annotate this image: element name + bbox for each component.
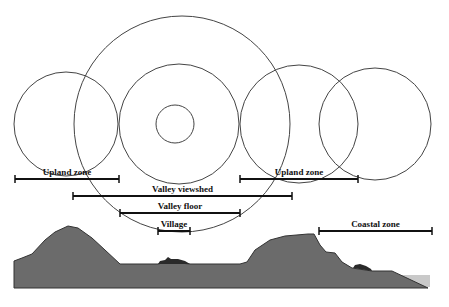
landscape-zone-diagram: Upland zoneValley viewshedValley floorVi…	[0, 0, 449, 307]
upland-zone-right-label: Upland zone	[275, 167, 323, 177]
coastal-zone-label: Coastal zone	[351, 219, 400, 229]
terrain-shape	[14, 226, 428, 288]
village-label: Village	[161, 219, 188, 229]
valley-viewshed-circle	[74, 16, 290, 232]
valley-floor-circle	[119, 64, 239, 184]
diagram-graphics	[0, 0, 449, 307]
coastal-circle	[319, 68, 431, 180]
terrain-profile	[14, 226, 430, 288]
upland-right-circle	[240, 65, 358, 183]
upland-left-circle	[14, 72, 118, 176]
valley-viewshed-label: Valley viewshed	[152, 184, 213, 194]
village-circle	[156, 105, 194, 143]
upland-zone-left-label: Upland zone	[43, 167, 91, 177]
village-settlement	[158, 257, 190, 264]
valley-floor-label: Valley floor	[158, 201, 202, 211]
